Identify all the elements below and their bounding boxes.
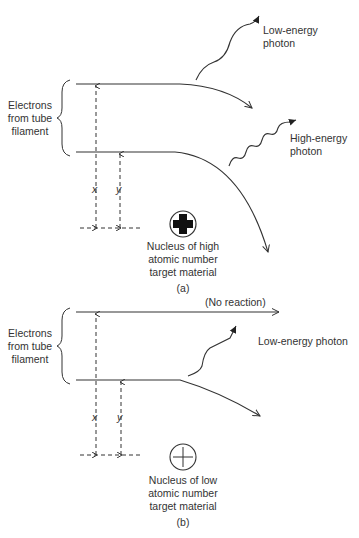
- label-line: atomic number: [138, 487, 228, 500]
- label-line: target material: [138, 500, 228, 513]
- low-energy-photon-label-a: Low-energy photon: [263, 24, 318, 50]
- distance-y-label-a: y: [116, 183, 121, 196]
- low-energy-photon-b: [188, 326, 236, 376]
- caption-b: (b): [170, 516, 196, 529]
- electron-brace-b: [57, 308, 70, 384]
- electrons-label-line: filament: [2, 125, 58, 138]
- electron-brace-a: [57, 80, 70, 156]
- distance-y-label-b: y: [117, 411, 122, 424]
- high-energy-photon-label-a: High-energy photon: [290, 132, 347, 158]
- no-reaction-label-b: (No reaction): [205, 296, 266, 309]
- electron-path-bottom-b: [76, 380, 260, 416]
- label-line: photon: [263, 37, 318, 50]
- high-energy-photon-a: [229, 120, 296, 166]
- caption-a: (a): [170, 282, 196, 295]
- panel-b: [57, 308, 279, 470]
- low-energy-photon-a: [196, 16, 259, 80]
- nucleus-label-b: Nucleus of low atomic number target mate…: [138, 474, 228, 513]
- bremsstrahlung-diagram: Electrons from tube filament Low-energy …: [0, 0, 359, 538]
- label-line: Low-energy: [263, 24, 318, 37]
- electrons-label-line: Electrons: [2, 99, 58, 112]
- distance-x-label-a: x: [92, 183, 97, 196]
- electron-path-bottom-a: [76, 152, 268, 252]
- distance-x-label-b: x: [92, 411, 97, 424]
- panel-a: [57, 16, 296, 252]
- label-line: atomic number: [138, 253, 228, 266]
- electrons-label-a: Electrons from tube filament: [2, 99, 58, 138]
- label-line: Nucleus of low: [138, 474, 228, 487]
- label-line: High-energy: [290, 132, 347, 145]
- plus-thin-circle-icon: [170, 444, 196, 470]
- plus-bold-circle-icon: [170, 211, 196, 237]
- electrons-label-line: from tube: [2, 340, 58, 353]
- electrons-label-line: filament: [2, 353, 58, 366]
- label-line: target material: [138, 266, 228, 279]
- electrons-label-line: Electrons: [2, 327, 58, 340]
- electrons-label-b: Electrons from tube filament: [2, 327, 58, 366]
- label-line: photon: [290, 145, 347, 158]
- label-line: Nucleus of high: [138, 240, 228, 253]
- low-energy-photon-label-b: Low-energy photon: [258, 335, 348, 348]
- nucleus-label-a: Nucleus of high atomic number target mat…: [138, 240, 228, 279]
- electron-path-top-a: [76, 84, 252, 108]
- electrons-label-line: from tube: [2, 112, 58, 125]
